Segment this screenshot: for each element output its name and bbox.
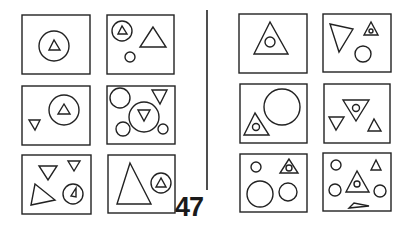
panel-frame — [22, 86, 90, 145]
panel-right-r3c1 — [240, 154, 307, 212]
panel-right-r3c2 — [323, 153, 391, 211]
panel-left-r2c1 — [22, 86, 90, 145]
panel-right-r1c1 — [239, 14, 307, 73]
panel-right-r1c2 — [323, 14, 391, 72]
panel-frame — [324, 84, 390, 143]
panel-right-r2c2 — [324, 84, 390, 143]
panel-right-r2c1 — [240, 84, 307, 143]
puzzle-page: 47 — [0, 0, 413, 231]
panel-left-r1c1 — [22, 15, 90, 74]
panel-left-r2c2 — [107, 86, 175, 144]
panel-left-r3c2 — [108, 155, 175, 213]
page-number: 47 — [175, 194, 203, 221]
panel-frame — [239, 14, 307, 73]
figure-canvas — [0, 0, 413, 231]
panel-frame — [240, 84, 307, 143]
panel-frame — [323, 14, 391, 72]
panel-left-r1c2 — [107, 15, 174, 74]
panel-left-r3c1 — [22, 155, 91, 214]
